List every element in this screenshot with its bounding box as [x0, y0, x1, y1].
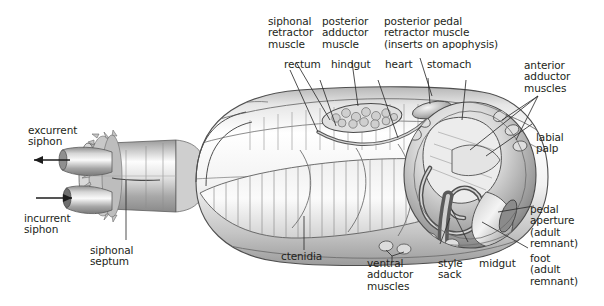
incurrent-siphon-cone: [63, 186, 112, 214]
label-midgut: midgut: [479, 258, 516, 269]
body-mass: [176, 87, 550, 266]
label-siphonal-septum: siphonal septum: [90, 245, 133, 268]
label-siphonal-retractor-muscle: siphonal retractor muscle: [268, 16, 313, 50]
label-style-sack: style sack: [438, 258, 463, 281]
label-incurrent-siphon: incurrent siphon: [24, 213, 71, 236]
label-excurrent-siphon: excurrent siphon: [28, 125, 77, 148]
label-anterior-adductor-muscles: anterior adductor muscles: [524, 60, 570, 94]
label-hindgut: hindgut: [331, 59, 371, 70]
figure-canvas: siphonal retractor muscle posterior addu…: [0, 0, 604, 306]
label-rectum: rectum: [284, 59, 321, 70]
label-ctenidia: ctenidia: [281, 251, 322, 262]
label-ventral-adductor-muscles: ventral adductor muscles: [367, 258, 413, 292]
label-heart: heart: [385, 59, 412, 70]
label-posterior-pedal-retractor-muscle: posterior pedal retractor muscle (insert…: [384, 16, 498, 50]
label-foot-adult-remnant: foot (adult remnant): [530, 253, 578, 287]
label-pedal-aperture: pedal aperture (adult remnant): [530, 204, 578, 250]
excurrent-siphon-cone: [59, 147, 112, 175]
label-labial-palp: labial palp: [536, 132, 564, 155]
label-posterior-adductor-muscle: posterior adductor muscle: [322, 16, 368, 50]
label-stomach: stomach: [427, 59, 471, 70]
